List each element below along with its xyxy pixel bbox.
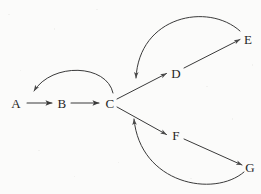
- edge-c-to-a-arc: [34, 70, 113, 93]
- edge-g-to-cf-arc: [134, 119, 244, 184]
- node-label-f: F: [172, 129, 179, 142]
- node-label-g: G: [245, 161, 255, 174]
- node-label-e: E: [244, 33, 252, 46]
- edge-d-to-e: [184, 40, 240, 69]
- graph-figure: A B C D E F G: [0, 0, 261, 194]
- graph-canvas: [0, 0, 261, 194]
- edge-c-to-d: [117, 74, 167, 100]
- edge-c-to-f: [117, 107, 167, 135]
- node-label-d: D: [171, 67, 181, 80]
- node-label-c: C: [106, 97, 115, 110]
- node-label-b: B: [58, 97, 67, 110]
- node-label-a: A: [11, 97, 21, 110]
- edge-f-to-g: [184, 139, 242, 165]
